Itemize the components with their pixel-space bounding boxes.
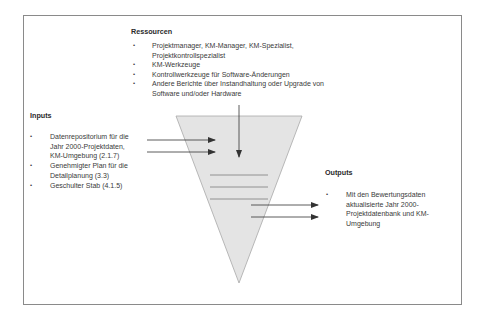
ressourcen-list: •Projektmanager, KM-Manager, KM-Speziali…: [133, 41, 363, 99]
ressourcen-item: •KM-Werkzeuge: [133, 60, 363, 70]
inputs-list: •Datenrepositorium für dieJahr 2000-Proj…: [30, 132, 145, 191]
inputs-item: •Genehmigter Plan für dieDetailplanung (…: [30, 161, 145, 181]
ressourcen-title: Ressourcen: [131, 27, 172, 36]
ressourcen-item: •Projektmanager, KM-Manager, KM-Speziali…: [133, 41, 363, 60]
ressourcen-item: •Kontrollwerkzeuge für Software-Änderung…: [133, 70, 363, 80]
inputs-item: •Geschulter Stab (4.1.5): [30, 181, 145, 191]
inputs-title: Inputs: [30, 111, 52, 120]
outputs-item: •Mit den Bewertungsdatenaktualisierte Ja…: [326, 190, 446, 228]
inputs-item: •Datenrepositorium für dieJahr 2000-Proj…: [30, 132, 145, 161]
outputs-title: Outputs: [325, 168, 353, 177]
ressourcen-item: •Andere Berichte über Instandhaltung ode…: [133, 79, 363, 98]
outputs-list: •Mit den Bewertungsdatenaktualisierte Ja…: [326, 190, 446, 228]
